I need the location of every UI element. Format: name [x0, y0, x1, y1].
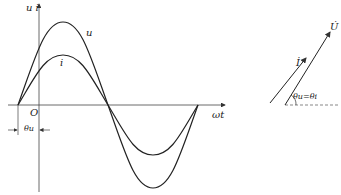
- voltage-phasor-label: U̇: [330, 22, 338, 32]
- current-curve-label: i: [60, 58, 63, 68]
- voltage-curve-label: u: [86, 28, 92, 38]
- sinusoid-diagram: [0, 0, 341, 195]
- phase-angle-label: θu: [24, 125, 34, 133]
- origin-label: O: [30, 108, 38, 118]
- angle-label: θu=θi: [293, 93, 317, 101]
- x-axis-label: ωt: [212, 110, 224, 120]
- current-phasor-label: İ: [296, 58, 300, 68]
- y-axis-label: u i: [26, 3, 39, 13]
